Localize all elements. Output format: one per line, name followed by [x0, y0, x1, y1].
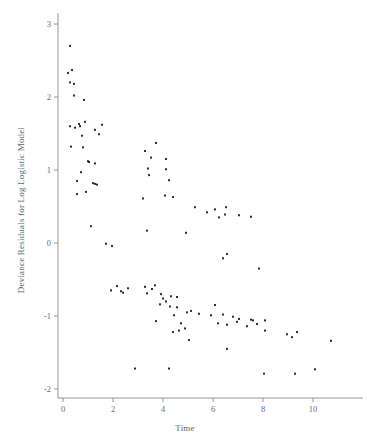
data-point: [105, 243, 107, 245]
scatter-plot-figure: 3210-1-2 0246810 Time Deviance Residuals…: [0, 0, 367, 448]
data-point: [154, 284, 156, 286]
data-point: [94, 162, 96, 164]
x-axis: 0246810: [58, 398, 363, 414]
data-point: [90, 225, 92, 227]
data-point: [222, 314, 224, 316]
data-point: [164, 195, 166, 197]
data-point: [258, 268, 260, 270]
data-point: [81, 135, 83, 137]
data-point: [217, 322, 219, 324]
x-tick-label: 0: [61, 404, 65, 414]
data-point: [330, 340, 332, 342]
data-point: [96, 184, 98, 186]
data-point: [78, 123, 80, 125]
data-point: [186, 311, 188, 313]
data-point: [236, 321, 238, 323]
data-point: [176, 296, 178, 298]
data-point: [286, 333, 288, 335]
data-point: [314, 368, 316, 370]
data-point: [291, 336, 293, 338]
data-point: [225, 206, 227, 208]
y-axis-title: Deviance Residuals for Log Logistic Mode…: [16, 126, 26, 293]
data-point: [71, 69, 73, 71]
data-point: [232, 316, 234, 318]
data-point: [160, 293, 162, 295]
data-point: [214, 208, 216, 210]
data-point: [70, 146, 72, 148]
x-tick-label: 2: [111, 404, 115, 414]
data-point: [101, 124, 103, 126]
data-point: [172, 196, 174, 198]
data-point: [198, 313, 200, 315]
data-point: [226, 324, 228, 326]
y-axis: 3210-1-2: [44, 13, 58, 398]
data-point: [190, 310, 192, 312]
data-point: [256, 323, 258, 325]
data-point: [147, 168, 149, 170]
data-points-layer: [67, 45, 332, 375]
data-point: [264, 330, 266, 332]
plot-canvas: 3210-1-2 0246810 Time Deviance Residuals…: [0, 0, 367, 448]
y-tick-label: -2: [44, 384, 51, 394]
data-point: [110, 289, 112, 291]
data-point: [226, 253, 228, 255]
data-point: [69, 45, 71, 47]
data-point: [252, 319, 254, 321]
data-point: [296, 331, 298, 333]
data-point: [214, 304, 216, 306]
data-point: [194, 206, 196, 208]
data-point: [263, 373, 265, 375]
data-point: [238, 214, 240, 216]
data-point: [210, 314, 212, 316]
data-point: [185, 232, 187, 234]
data-point: [120, 290, 122, 292]
data-point: [134, 368, 136, 370]
data-point: [246, 325, 248, 327]
data-point: [155, 320, 157, 322]
data-point: [173, 314, 175, 316]
y-tick-label: 1: [47, 165, 51, 175]
x-tick-label: 4: [161, 404, 166, 414]
x-axis-title: Time: [175, 423, 194, 433]
data-point: [222, 257, 224, 259]
data-point: [69, 81, 71, 83]
y-tick-label: 0: [47, 238, 51, 248]
data-point: [172, 331, 174, 333]
data-point: [151, 288, 153, 290]
data-point: [146, 230, 148, 232]
data-point: [144, 150, 146, 152]
data-point: [180, 322, 182, 324]
data-point: [162, 297, 164, 299]
data-point: [264, 319, 266, 321]
data-point: [98, 133, 100, 135]
data-point: [155, 142, 157, 144]
data-point: [80, 171, 82, 173]
data-point: [92, 182, 94, 184]
data-point: [87, 160, 89, 162]
data-point: [218, 216, 220, 218]
data-point: [127, 287, 129, 289]
data-point: [69, 125, 71, 127]
y-tick-label: -1: [44, 311, 51, 321]
data-point: [116, 285, 118, 287]
data-point: [178, 330, 180, 332]
data-point: [73, 95, 75, 97]
data-point: [148, 174, 150, 176]
data-point: [150, 157, 152, 159]
data-point: [146, 292, 148, 294]
data-point: [144, 286, 146, 288]
data-point: [188, 339, 190, 341]
data-point: [169, 306, 171, 308]
data-point: [94, 129, 96, 131]
data-point: [79, 125, 81, 127]
data-point: [74, 127, 76, 129]
data-point: [76, 180, 78, 182]
data-point: [170, 295, 172, 297]
data-point: [226, 348, 228, 350]
x-tick-label: 10: [309, 404, 318, 414]
data-point: [224, 214, 226, 216]
data-point: [111, 245, 113, 247]
data-point: [168, 179, 170, 181]
data-point: [122, 292, 124, 294]
data-point: [165, 168, 167, 170]
